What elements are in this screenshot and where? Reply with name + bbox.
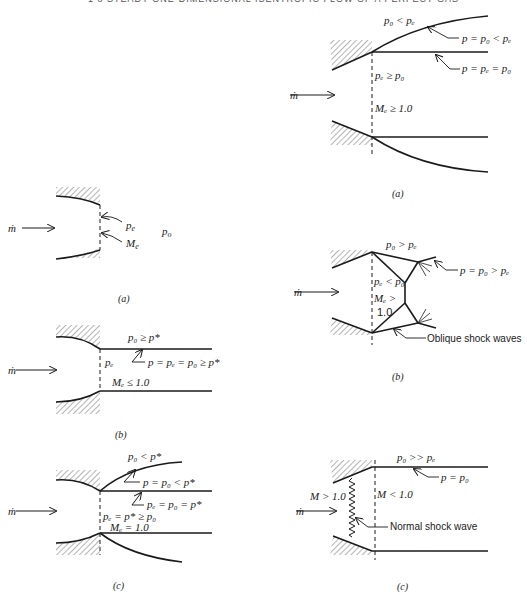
- svg-text:M < 1.0: M < 1.0: [376, 488, 413, 500]
- svg-text:p₀ < p*: p₀ < p*: [127, 450, 162, 462]
- svg-text:p = p₀ > pₑ: p = p₀ > pₑ: [459, 264, 509, 276]
- normal-shock-wave: [349, 478, 355, 537]
- mass-flow-label: ṁ: [296, 505, 304, 517]
- caption-left-a: (a): [118, 293, 130, 305]
- svg-text:1.0: 1.0: [377, 306, 392, 318]
- mass-flow-label: ṁ: [290, 89, 298, 101]
- left-b-diagram: [16, 325, 212, 414]
- mass-flow-label: ṁ: [8, 222, 16, 234]
- svg-text:Mₑ >: Mₑ >: [373, 292, 396, 304]
- left-a-diagram: [22, 187, 122, 259]
- svg-text:pe: pe: [125, 219, 136, 233]
- oblique-shock-label: Oblique shock waves: [427, 333, 522, 344]
- right-a-diagram: [290, 16, 488, 172]
- svg-text:M > 1.0: M > 1.0: [309, 490, 346, 502]
- normal-shock-label: Normal shock wave: [390, 521, 478, 532]
- svg-text:pₑ < p₀: pₑ < p₀: [373, 275, 405, 287]
- svg-text:p = pₑ = p₀: p = pₑ = p₀: [461, 62, 511, 74]
- svg-text:p₀ < pₑ: p₀ < pₑ: [383, 14, 415, 26]
- caption-left-c: (c): [113, 580, 125, 592]
- caption-left-b: (b): [115, 429, 127, 441]
- svg-text:Mₑ ≤ 1.0: Mₑ ≤ 1.0: [111, 376, 150, 388]
- svg-text:p = pₑ = p₀ ≥ p*: p = pₑ = p₀ ≥ p*: [147, 356, 220, 368]
- svg-text:p₀ ≥ p*: p₀ ≥ p*: [127, 331, 160, 343]
- mass-flow-label: ṁ: [8, 364, 16, 376]
- svg-text:Me: Me: [125, 237, 139, 251]
- mass-flow-label: ṁ: [8, 505, 16, 517]
- svg-text:Mₑ = 1.0: Mₑ = 1.0: [109, 521, 149, 533]
- caption-right-b: (b): [392, 371, 404, 383]
- mass-flow-label: ṁ: [294, 286, 302, 298]
- svg-text:pₑ: pₑ: [104, 356, 114, 368]
- svg-text:p = p₀ < p*: p = p₀ < p*: [142, 476, 195, 488]
- svg-text:p = p₀: p = p₀: [440, 471, 469, 483]
- svg-text:pₑ = p₀ = p*: pₑ = p₀ = p*: [146, 498, 202, 510]
- svg-text:p = p₀ < pₑ: p = p₀ < pₑ: [461, 32, 511, 44]
- svg-text:p₀ >> pₑ: p₀ >> pₑ: [396, 451, 435, 463]
- caption-right-c: (c): [397, 581, 409, 593]
- svg-text:po: po: [161, 225, 172, 239]
- svg-text:pₑ ≥ p₀: pₑ ≥ p₀: [374, 69, 404, 81]
- svg-text:p₀ > pₑ: p₀ > pₑ: [385, 238, 417, 250]
- caption-right-a: (a): [392, 188, 404, 200]
- svg-text:Mₑ ≥ 1.0: Mₑ ≥ 1.0: [374, 102, 413, 114]
- nozzle-flow-diagrams: ṁ pe Me po (a) ṁ p₀ ≥ p* pₑ p = pₑ = p₀ …: [0, 0, 527, 595]
